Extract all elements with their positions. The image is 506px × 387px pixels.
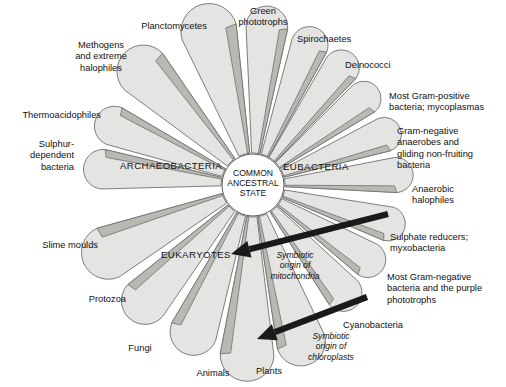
branch-label-protozoa: Protozoa [68, 294, 126, 305]
domain-label-eubacteria: EUBACTERIA [283, 161, 349, 172]
branch-label-animals: Animals [188, 368, 238, 379]
branch-label-methogens-extreme-halophiles: Methogens and extreme halophiles [62, 40, 140, 74]
branch-label-most-gram-negative-purple: Most Gram-negative bacteria and the purp… [387, 272, 505, 306]
annotation-symbiotic-origin-mitochondria: Symbiotic origin of mitochondria [253, 250, 337, 281]
branch-label-green-phototrophs: Green phototrophs [228, 6, 298, 29]
annotation-symbiotic-origin-chloroplasts: Symbiotic origin of chloroplasts [289, 331, 373, 362]
branch-label-slime-moulds: Slime moulds [20, 240, 98, 251]
branch-label-cyanobacteria: Cyanobacteria [343, 320, 423, 331]
branch-label-planctomycetes: Planctomycetes [133, 21, 215, 32]
domain-label-eukaryotes: EUKARYOTES [161, 249, 231, 260]
phylogenetic-tree-figure: Sulphur- dependent bacteriaThermoacidoph… [0, 0, 506, 387]
branch-label-sulphur-dependent-bacteria: Sulphur- dependent bacteria [8, 139, 74, 173]
branch-label-deinococci: Deinococci [345, 60, 407, 71]
branch-label-thermoacidophiles: Thermoacidophiles [4, 110, 101, 121]
branch-label-spirochaetes: Spirochaetes [297, 34, 369, 45]
lobe-shading-anaerobic-halophiles [285, 185, 397, 192]
branch-label-fungi: Fungi [118, 343, 162, 354]
branch-label-most-gram-positive-bacteria: Most Gram-positive bacteria; mycoplasmas [389, 91, 504, 114]
branch-label-sulphate-reducers-myxobacteria: Sulphate reducers; myxobacteria [390, 232, 502, 255]
branch-label-gram-negative-anaerobes: Gram-negative anaerobes and gliding non-… [397, 126, 503, 172]
branch-label-plants: Plants [246, 366, 292, 377]
branch-label-anaerobic-halophiles: Anaerobic halophiles [412, 184, 490, 207]
common-ancestral-state-label: COMMON ANCESTRAL STATE [216, 169, 290, 198]
domain-label-archaeobacteria: ARCHAEOBACTERIA [120, 160, 222, 171]
